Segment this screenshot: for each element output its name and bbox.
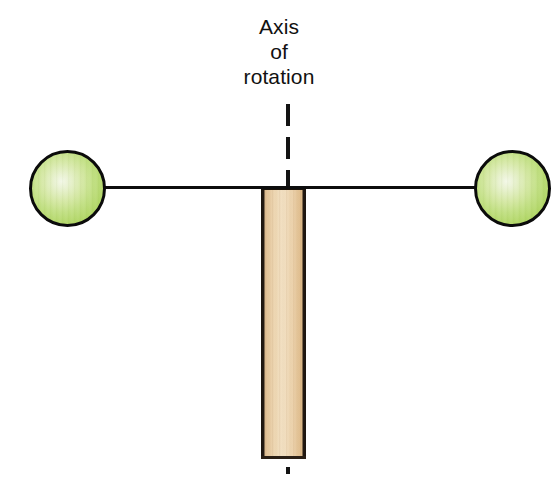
post-grain-texture [265, 187, 302, 459]
label-line-rotation: rotation [0, 64, 559, 89]
right-sphere [474, 150, 551, 227]
label-line-of: of [0, 39, 559, 64]
left-sphere-texture [32, 153, 103, 224]
vertical-post [261, 187, 306, 459]
left-sphere [29, 150, 106, 227]
right-sphere-texture [477, 153, 548, 224]
horizontal-rod [64, 186, 516, 189]
label-line-axis: Axis [0, 14, 559, 39]
axis-of-rotation-diagram: Axis of rotation [0, 0, 559, 488]
post-bottom-edge [261, 456, 306, 459]
axis-of-rotation-label: Axis of rotation [0, 14, 559, 89]
